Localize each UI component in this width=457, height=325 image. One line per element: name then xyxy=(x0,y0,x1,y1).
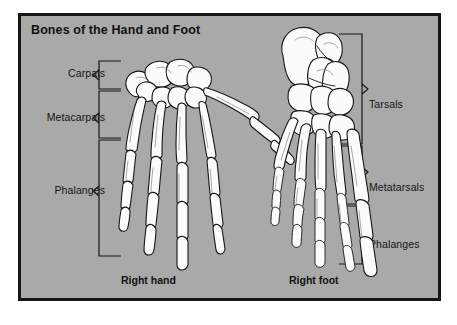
toe-1-distal xyxy=(360,237,377,277)
hand-skeleton xyxy=(119,59,294,270)
bracket-hand-phalanges xyxy=(99,140,121,256)
finger-phalanges xyxy=(119,150,225,270)
metacarpal-5 xyxy=(126,97,146,153)
metacarpal-4 xyxy=(151,101,166,160)
phalanx-5-proximal xyxy=(123,150,136,184)
skeleton-illustration xyxy=(21,16,438,298)
toe-4-distal xyxy=(292,224,302,247)
hand-brackets xyxy=(93,61,121,256)
bracket-metacarpals-pointer xyxy=(93,113,99,123)
bracket-carpals xyxy=(99,61,121,89)
phalanx-5-distal xyxy=(119,207,130,231)
phalanx-5-middle xyxy=(121,181,133,210)
phalanx-2-distal xyxy=(213,224,225,254)
phalanx-4-middle xyxy=(146,192,159,228)
metatarsal-2 xyxy=(332,131,346,197)
toe-5-distal xyxy=(271,207,280,225)
bracket-hand-phalanges-pointer xyxy=(93,186,99,196)
phalanx-3-middle xyxy=(177,201,188,241)
metacarpal-1-thumb xyxy=(204,88,260,122)
phalanx-2-proximal xyxy=(207,157,220,198)
phalanx-2-middle xyxy=(210,193,223,229)
phalanx-3-distal xyxy=(177,236,188,270)
bracket-metacarpals xyxy=(99,91,121,138)
metatarsal-1 xyxy=(347,129,369,205)
toe-3-distal xyxy=(315,240,325,267)
phalanx-4-distal xyxy=(144,224,156,255)
toe-5-proximal xyxy=(273,167,284,193)
phalanx-3-proximal xyxy=(177,162,188,206)
tarsal-cuneiform-lateral xyxy=(328,88,353,115)
toe-2-proximal xyxy=(337,193,349,226)
toe-2-distal xyxy=(343,245,355,271)
phalanx-4-proximal xyxy=(148,156,162,196)
bracket-carpals-pointer xyxy=(93,70,99,80)
figure-panel: Bones of the Hand and Foot Carpals Metac… xyxy=(18,13,441,301)
metacarpal-2 xyxy=(199,101,216,159)
bracket-tarsals-pointer xyxy=(362,84,368,94)
metacarpal-3 xyxy=(176,103,187,164)
toe-1-proximal xyxy=(356,200,373,242)
toe-3-proximal xyxy=(315,188,325,221)
foot-skeleton xyxy=(271,27,377,276)
metatarsal-3 xyxy=(315,129,326,192)
